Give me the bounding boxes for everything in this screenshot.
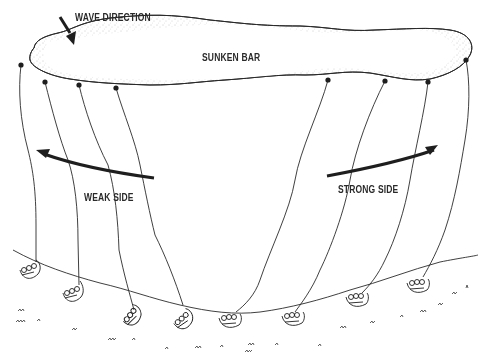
swimmer-figure-icon — [282, 312, 304, 325]
swimmer-figure-icon — [20, 260, 40, 278]
swimmer-figure-icon — [63, 281, 83, 301]
sunken-bar-shape — [30, 15, 472, 85]
swimmer-figure-icon — [407, 279, 429, 292]
swimmers — [20, 260, 429, 331]
swimmer-figure-icon — [219, 314, 241, 327]
swimmer-figure-icon — [346, 293, 368, 306]
wave-direction-label: WAVE DIRECTION — [75, 12, 151, 23]
swimmer-figure-icon — [170, 307, 195, 331]
strong-side-label: STRONG SIDE — [338, 184, 398, 195]
weak-side-arrow-icon — [36, 149, 154, 178]
weak-side-label: WEAK SIDE — [84, 192, 134, 203]
swimmer-figure-icon — [118, 303, 145, 329]
strong-side-arrow-icon — [327, 145, 438, 176]
rip-current-diagram: WAVE DIRECTION SUNKEN BAR WEAK SIDE STRO… — [0, 0, 491, 364]
sunken-bar-label: SUNKEN BAR — [202, 52, 260, 63]
sand-tufts — [16, 285, 468, 352]
